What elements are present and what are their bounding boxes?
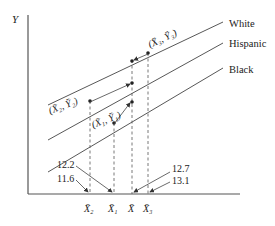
y-axis-label: Y [12, 13, 20, 25]
point-xbar-white [130, 59, 134, 63]
value-11-6: 11.6 [57, 173, 74, 184]
callout-12-2 [76, 166, 112, 192]
value-12-2: 12.2 [57, 159, 75, 170]
x-tick-xbar: X̄ [127, 203, 135, 214]
point-xbar-black [130, 100, 134, 104]
value-13-1: 13.1 [172, 175, 190, 186]
x-tick-x2: X̄₂ [83, 203, 94, 214]
point-xbar-hispanic [130, 81, 134, 85]
diagram-canvas: Y White Hispanic Black (X̄₂, Ȳ₂) (X̄₁, … [0, 0, 275, 226]
callout-13-1 [150, 182, 170, 192]
x-tick-x1: X̄₁ [107, 203, 118, 214]
line-label-black: Black [229, 64, 254, 75]
point-label-x1y1: (X̄₁, Ȳ₁) [90, 109, 123, 131]
white-line [48, 22, 223, 105]
x-tick-x3: X̄₃ [142, 203, 153, 214]
callout-11-6 [76, 180, 88, 192]
shift-arrow-hispanic [90, 84, 130, 102]
line-label-hispanic: Hispanic [229, 38, 267, 49]
shift-arrow-white [134, 54, 148, 60]
hispanic-line [48, 43, 223, 140]
black-line [48, 68, 223, 172]
callout-12-7 [134, 172, 170, 192]
point-label-x3y3: (X̄₃, Ȳ₃) [146, 27, 179, 51]
line-label-white: White [229, 18, 255, 29]
point-label-x2y2: (X̄₂, Ȳ₂) [47, 95, 80, 117]
value-12-7: 12.7 [172, 163, 190, 174]
